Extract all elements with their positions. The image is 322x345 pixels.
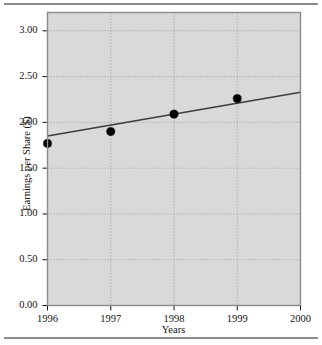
x-tick-label: 1998 (154, 314, 194, 325)
y-tick-label: 3.00 (4, 25, 38, 36)
y-axis-title: Earnings per Share ($) (21, 84, 32, 244)
x-tick-label: 1999 (217, 314, 257, 325)
y-tick-label: 2.50 (4, 71, 38, 82)
x-tick-label: 1997 (91, 314, 131, 325)
x-tick-label: 1996 (28, 314, 68, 325)
y-tick-label: 0.50 (4, 254, 38, 265)
y-tick-label: 0.00 (4, 300, 38, 311)
chart-figure: 0.000.501.001.502.002.503.00 19961997199… (0, 0, 322, 345)
scatter-plot-canvas (0, 0, 322, 345)
x-tick-label: 2000 (281, 314, 321, 325)
x-axis-title: Years (47, 324, 300, 335)
